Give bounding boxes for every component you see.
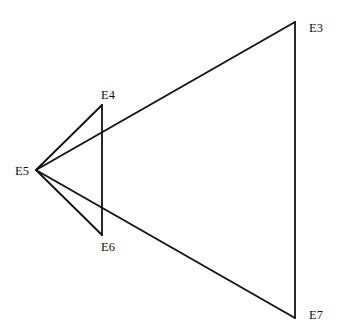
label-e6: E6 <box>101 240 115 254</box>
edges <box>36 22 295 318</box>
label-e4: E4 <box>101 88 116 102</box>
edge-e7-e5 <box>36 170 295 318</box>
edge-e5-e3 <box>36 22 295 170</box>
label-e3: E3 <box>309 21 323 35</box>
node-labels: E3 E4 E5 E6 E7 <box>15 21 323 322</box>
label-e7: E7 <box>309 308 323 322</box>
diagram-canvas: E3 E4 E5 E6 E7 <box>0 0 344 336</box>
label-e5: E5 <box>15 164 29 178</box>
triangle-diagram: E3 E4 E5 E6 E7 <box>0 0 344 336</box>
